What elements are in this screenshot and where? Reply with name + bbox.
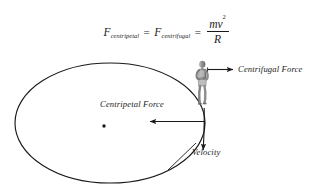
circular-path-ellipse — [15, 63, 205, 183]
centripetal-force-label: Centripetal Force — [100, 99, 164, 109]
physics-figure: Fcentripetal = Fcentrifugal = mv2 R — [0, 0, 327, 192]
runner-figure — [197, 61, 208, 105]
velocity-arrow — [203, 121, 204, 150]
diagram-canvas — [0, 0, 327, 192]
center-dot — [102, 124, 105, 127]
velocity-label: Velocity — [192, 147, 220, 157]
centrifugal-force-label: Centrifugal Force — [238, 64, 303, 74]
